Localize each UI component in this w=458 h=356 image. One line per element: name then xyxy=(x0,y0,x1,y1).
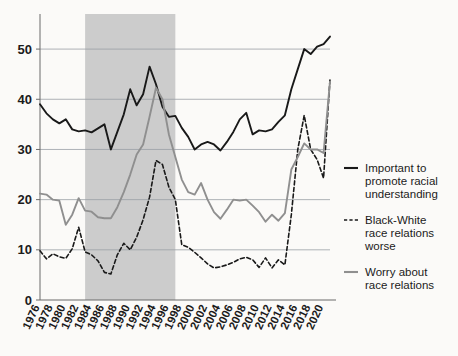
y-tick-label: 50 xyxy=(18,42,32,57)
y-tick-label: 10 xyxy=(18,242,32,257)
legend-label-1: race relations xyxy=(365,227,434,239)
legend-label-2: race relations xyxy=(365,279,434,291)
chart-legend: Important topromote racialunderstandingB… xyxy=(344,162,438,291)
gridlines xyxy=(40,49,330,250)
shaded-band xyxy=(85,14,175,300)
data-series xyxy=(40,37,330,274)
legend-label-1: Black-White xyxy=(365,214,426,226)
series-line-2 xyxy=(40,82,330,225)
legend-label-0: understanding xyxy=(365,188,438,200)
line-chart: 01020304050 1976197819801982198419861988… xyxy=(0,0,458,356)
legend-label-2: Worry about xyxy=(365,266,428,278)
axes xyxy=(40,14,336,300)
legend-label-0: Important to xyxy=(365,162,426,174)
legend-label-1: worse xyxy=(364,240,396,252)
y-tick-label: 40 xyxy=(18,92,32,107)
shaded-region xyxy=(85,14,175,300)
legend-label-0: promote racial xyxy=(365,175,438,187)
y-tick-label: 20 xyxy=(18,192,32,207)
x-axis-ticks: 1976197819801982198419861988199019921994… xyxy=(20,302,325,331)
y-tick-label: 30 xyxy=(18,142,32,157)
chart-container: 01020304050 1976197819801982198419861988… xyxy=(0,0,458,356)
series-line-0 xyxy=(40,37,330,151)
y-axis-ticks: 01020304050 xyxy=(18,42,40,308)
